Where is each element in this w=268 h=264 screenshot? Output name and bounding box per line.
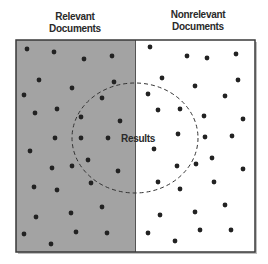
nonrelevant-document-dot — [223, 203, 228, 208]
relevant-document-dot — [79, 136, 84, 141]
nonrelevant-document-dot — [178, 107, 183, 112]
relevant-document-dot — [118, 119, 123, 124]
relevant-document-dot — [25, 47, 30, 52]
relevant-document-dot — [110, 54, 115, 59]
nonrelevant-document-dot — [158, 213, 163, 218]
nonrelevant-region — [135, 40, 255, 252]
nonrelevant-document-dot — [193, 210, 198, 215]
nonrelevant-document-dot — [194, 162, 199, 167]
nonrelevant-document-dot — [148, 45, 153, 50]
relevant-document-dot — [69, 211, 74, 216]
nonrelevant-document-dot — [146, 231, 151, 236]
nonrelevant-document-dot — [173, 239, 178, 244]
nonrelevant-document-dot — [203, 135, 208, 140]
nonrelevant-document-dot — [160, 76, 165, 81]
relevant-document-dot — [116, 169, 121, 174]
nonrelevant-document-dot — [185, 54, 190, 59]
nonrelevant-document-dot — [176, 132, 181, 137]
relevant-document-dot — [74, 230, 79, 235]
nonrelevant-document-dot — [146, 92, 151, 97]
relevant-region — [16, 40, 135, 252]
nonrelevant-document-dot — [175, 164, 180, 169]
relevant-document-dot — [50, 166, 55, 171]
relevant-document-dot — [37, 78, 42, 83]
relevant-document-dot — [112, 80, 117, 85]
relevant-document-dot — [53, 136, 58, 141]
nonrelevant-document-dot — [193, 84, 198, 89]
nonrelevant-document-dot — [205, 56, 210, 61]
nonrelevant-document-dot — [210, 156, 215, 161]
relevant-document-dot — [100, 96, 105, 101]
relevant-document-dot — [105, 231, 110, 236]
nonrelevant-document-dot — [234, 52, 239, 57]
nonrelevant-document-dot — [212, 180, 217, 185]
relevant-document-dot — [32, 185, 37, 190]
nonrelevant-document-dot — [241, 117, 246, 122]
relevant-document-dot — [55, 107, 60, 112]
nonrelevant-document-dot — [230, 134, 235, 139]
relevant-document-dot — [49, 242, 54, 247]
nonrelevant-document-dot — [229, 228, 234, 233]
relevant-document-dot — [70, 164, 75, 169]
relevant-document-dot — [100, 205, 105, 210]
nonrelevant-document-dot — [241, 167, 246, 172]
nonrelevant-document-dot — [178, 187, 183, 192]
nonrelevant-document-dot — [202, 114, 207, 119]
document-set-diagram: Results — [0, 0, 268, 264]
relevant-document-dot — [28, 149, 33, 154]
relevant-document-dot — [79, 115, 84, 120]
relevant-document-dot — [33, 111, 38, 116]
relevant-document-dot — [34, 215, 39, 220]
nonrelevant-document-dot — [198, 228, 203, 233]
relevant-document-dot — [52, 50, 57, 55]
nonrelevant-document-dot — [156, 180, 161, 185]
relevant-document-dot — [70, 86, 75, 91]
relevant-document-dot — [22, 232, 27, 237]
nonrelevant-document-dot — [236, 78, 241, 83]
relevant-document-dot — [89, 181, 94, 186]
relevant-document-dot — [22, 93, 27, 98]
nonrelevant-document-dot — [156, 108, 161, 113]
relevant-document-dot — [55, 188, 60, 193]
relevant-document-dot — [106, 136, 111, 141]
relevant-document-dot — [82, 57, 87, 62]
results-label: Results — [121, 133, 156, 144]
nonrelevant-document-dot — [152, 147, 157, 152]
relevant-document-dot — [86, 158, 91, 163]
nonrelevant-document-dot — [223, 94, 228, 99]
